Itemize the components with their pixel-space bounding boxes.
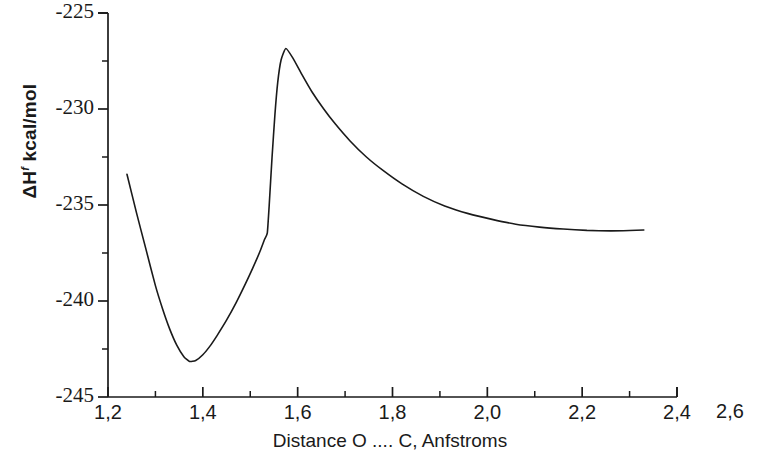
x-axis-major-ticks [108, 387, 677, 397]
x-axis-title: Distance O .... C, Anfstroms [180, 430, 600, 452]
x-tick-label: 2,0 [457, 401, 517, 424]
y-axis-title-superscript: f [19, 167, 31, 171]
y-tick-label: -225 [28, 0, 94, 24]
x-tick-label: 2,4 [647, 401, 707, 424]
y-axis-major-ticks [98, 13, 108, 397]
axes [98, 13, 677, 397]
chart-figure: ΔHf kcal/mol Distance O .... C, Anfstrom… [0, 0, 773, 476]
y-tick-label: -230 [28, 95, 94, 120]
x-tick-label: 1,4 [173, 401, 233, 424]
x-tick-label: 1,2 [78, 401, 138, 424]
x-tick-label: 2,2 [552, 401, 612, 424]
x-tick-label: 1,6 [268, 401, 328, 424]
y-tick-label: -240 [28, 287, 94, 312]
data-series-line [127, 49, 644, 362]
x-tick-label: 1,8 [363, 401, 423, 424]
y-tick-label: -235 [28, 191, 94, 216]
x-axis-outside-label: 2,6 [700, 400, 760, 423]
